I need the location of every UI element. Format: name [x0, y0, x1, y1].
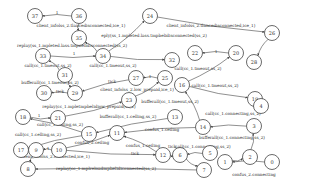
- node-label: 5: [208, 150, 211, 156]
- state-node-13: 13: [168, 110, 183, 125]
- edge-label: call(cc_1.tmeout,ss_2): [90, 63, 137, 68]
- node-label: 21: [55, 115, 61, 121]
- node-label: 32: [169, 57, 175, 63]
- state-node-17: 17: [14, 143, 29, 158]
- edge-14-to-16: [185, 92, 199, 121]
- state-node-20: 20: [229, 46, 244, 61]
- state-node-7: 7: [197, 163, 212, 178]
- node-label: 7: [202, 167, 205, 173]
- edge-34-to-32: [110, 56, 164, 59]
- edge-arrow: [110, 56, 164, 59]
- state-node-29: 29: [68, 86, 83, 101]
- state-node-0: 0: [265, 155, 280, 170]
- state-node-6: 6: [173, 148, 188, 163]
- edge-label: call(cc_1.connecting,ss_2): [205, 111, 261, 116]
- edge-label: bufferall(cc_1.celling,ss_2): [100, 114, 157, 119]
- edge-label: eply(ss_1.mpleted.lass.tmpbelidisconnect…: [101, 33, 207, 38]
- edge-arrow: [51, 56, 96, 58]
- state-node-15: 15: [82, 127, 97, 142]
- edge-label: tick: [168, 144, 176, 149]
- edge-label: tick: [131, 151, 139, 156]
- edge-label: bufferall(cc_1.tmeout,ss_2): [21, 80, 79, 85]
- state-node-1: 1: [218, 155, 233, 170]
- node-label: 6: [178, 152, 181, 158]
- state-node-8: 8: [21, 162, 36, 177]
- edge-label: call(cc_1.tmeout,ss_2): [192, 83, 239, 88]
- state-node-36: 36: [72, 9, 87, 24]
- edge-arrow: [186, 159, 197, 166]
- node-label: 10: [56, 147, 62, 153]
- edge-label: 1: [47, 146, 50, 151]
- node-label: 9: [34, 147, 37, 153]
- node-label: 31: [62, 72, 68, 78]
- state-node-26: 26: [265, 26, 280, 41]
- state-node-28: 28: [247, 55, 262, 70]
- edge-label: 1: [56, 10, 59, 15]
- state-node-18: 18: [16, 110, 31, 125]
- edge-3-to-14: [210, 125, 246, 127]
- node-label: 14: [200, 124, 206, 130]
- edge-arrow: [189, 86, 247, 97]
- state-node-30: 30: [37, 86, 52, 101]
- node-label: 12: [160, 152, 166, 158]
- edge-5-to-6: [187, 152, 202, 154]
- state-node-12: 12: [156, 148, 171, 163]
- node-label: 24: [147, 13, 153, 19]
- edge-label: tick: [56, 89, 64, 94]
- node-label: 35: [76, 35, 82, 41]
- state-node-35: 35: [72, 31, 87, 46]
- node-label: 37: [32, 13, 38, 19]
- node-label: 33: [40, 53, 46, 59]
- state-node-33: 33: [36, 49, 51, 64]
- state-node-2: 2: [243, 150, 258, 165]
- edge-26-to-28: [258, 39, 268, 55]
- edge-label: confus_1.ceiling: [126, 143, 161, 148]
- edge-label: 1: [73, 51, 76, 56]
- edge-label: call(cc_1.tmeout,ss_2): [175, 66, 222, 71]
- state-node-32: 32: [165, 53, 180, 68]
- edge-label: 1: [149, 74, 152, 79]
- node-label: 11: [114, 130, 120, 136]
- state-diagram: 1client_infolss_2.tlancedisconnected,ice…: [0, 0, 320, 188]
- node-label: 8: [26, 166, 29, 172]
- node-label: 28: [251, 59, 257, 65]
- edge-label: confus_2.connecting: [232, 172, 276, 177]
- edge-arrow: [185, 92, 199, 121]
- state-node-21: 21: [51, 111, 66, 126]
- edge-label: client_infolss_2.tlancedisconnected,ice_…: [167, 23, 256, 28]
- edge-6-to-7: [186, 159, 197, 166]
- state-node-10: 10: [52, 143, 67, 158]
- node-label: 15: [86, 131, 92, 137]
- node-label: 25: [162, 75, 168, 81]
- node-label: 3: [252, 123, 255, 129]
- state-node-24: 24: [143, 9, 158, 24]
- state-node-4: 4: [254, 99, 269, 114]
- edge-label: client_infolss_2.low_prepaid,ice_1): [100, 87, 174, 92]
- node-label: 17: [18, 147, 24, 153]
- node-label: 30: [41, 90, 47, 96]
- node-label: 29: [72, 90, 78, 96]
- edge-33-to-34: [51, 56, 96, 58]
- state-node-25: 25: [158, 71, 173, 86]
- state-node-34: 34: [96, 49, 111, 64]
- edge-label: confus_1.ceiling: [145, 127, 180, 132]
- state-node-27: 27: [129, 71, 144, 86]
- node-label: 27: [133, 75, 139, 81]
- edge-18-to-21: [30, 117, 50, 119]
- edge-16-to-19: [189, 86, 247, 97]
- state-node-23: 23: [122, 93, 137, 108]
- edge-label: bufferall(cc_1.connecting,ss_2): [199, 135, 265, 140]
- node-label: 26: [269, 30, 275, 36]
- node-label: 36: [76, 13, 82, 19]
- edge-label: bufferall(cc_1.tmeout,ss_2): [141, 99, 199, 104]
- node-label: 0: [270, 159, 273, 165]
- edge-arrow: [258, 39, 268, 55]
- node-label: 13: [172, 114, 178, 120]
- node-label: 4: [259, 103, 262, 109]
- edge-arrow: [187, 152, 202, 154]
- state-node-14: 14: [196, 120, 211, 135]
- edge-label: replay(cc_1.mplreloadmpbelidiconnected(s…: [56, 166, 156, 171]
- edge-label: call(cc_1.celling,ss_2): [15, 132, 62, 137]
- node-label: 1: [223, 159, 226, 165]
- node-label: 2: [248, 154, 251, 160]
